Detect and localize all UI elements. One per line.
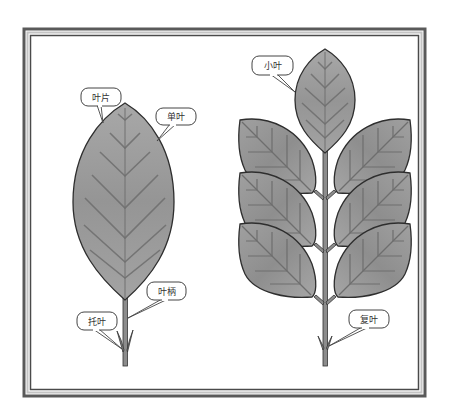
callout-stipule: 托叶 <box>77 312 122 349</box>
label-petiole: 叶柄 <box>158 286 176 297</box>
callout-simple-leaf: 单叶 <box>156 108 196 141</box>
label-leaflet: 小叶 <box>264 61 282 71</box>
stipule <box>127 330 133 352</box>
label-stipule: 托叶 <box>88 316 106 327</box>
label-compound-leaf: 复叶 <box>360 314 378 325</box>
callout-leaflet: 小叶 <box>252 56 295 92</box>
callout-compound-leaf: 复叶 <box>329 310 389 346</box>
leaf-diagram: 叶片 单叶 叶柄 托叶 小叶 复叶 <box>0 0 449 419</box>
label-simple-leaf: 单叶 <box>167 111 185 122</box>
terminal-leaflet <box>295 49 355 153</box>
petiole <box>123 296 128 366</box>
rachis <box>323 150 328 366</box>
label-blade: 叶片 <box>92 92 110 103</box>
